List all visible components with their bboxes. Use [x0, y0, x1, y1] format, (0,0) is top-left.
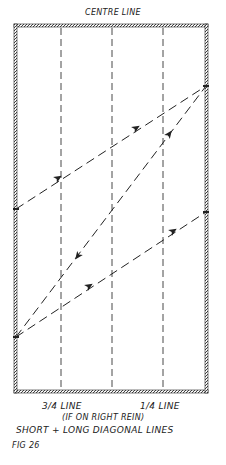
short-diagonal-upper — [16, 86, 206, 209]
arena-walls — [14, 24, 208, 393]
three-quarter-line-label: 3/4 LINE — [42, 401, 82, 411]
centre-line-label: CENTRE LINE — [0, 8, 226, 17]
diagram-caption: SHORT + LONG DIAGONAL LINES — [16, 425, 173, 435]
figure-number: FIG 26 — [12, 441, 40, 450]
arrow-down-icon — [72, 251, 82, 262]
long-diagonal — [16, 86, 206, 337]
arrow-right-icon — [168, 226, 179, 236]
arena-diagram — [0, 0, 226, 465]
rein-note: (IF ON RIGHT REIN) — [62, 413, 145, 422]
short-diagonal-lower — [16, 212, 206, 337]
quarter-line-label: 1/4 LINE — [140, 401, 180, 411]
guide-lines — [61, 28, 163, 389]
